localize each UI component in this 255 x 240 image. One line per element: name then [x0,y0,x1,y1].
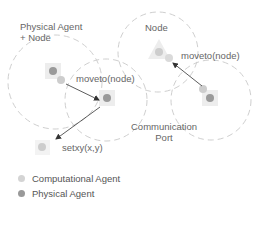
label-physical-agent-line2: + Node [20,32,82,43]
node-dot[interactable] [155,48,163,56]
label-physical-agent-line1: Physical Agent [20,21,82,32]
arrow-setxy [56,107,100,139]
middle-physical-agent-group [99,90,115,106]
label-node: Node [145,22,168,33]
label-communication-line2: Port [126,132,202,143]
physical-agent-dot[interactable] [103,94,111,102]
computational-agent-dot[interactable] [57,76,65,84]
legend-label-computational: Computational Agent [32,173,120,184]
computational-agent-dot[interactable] [199,85,207,93]
arrow-moveto-right [173,63,202,86]
node-group [148,39,173,62]
physical-agent-legend-icon [18,190,25,197]
physical-agent-dot[interactable] [206,94,214,102]
legend-item-physical-agent: Physical Agent [18,187,94,199]
computational-agent-legend-icon [18,175,25,182]
label-communication-port: Communication Port [126,121,202,143]
label-setxy: setxy(x,y) [62,142,103,153]
label-moveto-left: moveto(node) [76,73,135,84]
physical-agent-node-group [45,63,65,84]
physical-agent-dot[interactable] [49,67,57,75]
legend-item-computational-agent: Computational Agent [18,172,120,184]
setxy-target-group [35,140,50,155]
label-moveto-right: moveto(node) [181,50,240,61]
right-agent-group [199,85,218,106]
computational-agent-dot[interactable] [165,54,173,62]
arrow-moveto-left [66,84,99,100]
label-communication-line1: Communication [126,121,202,132]
legend-label-physical: Physical Agent [32,188,94,199]
label-physical-agent-node: Physical Agent + Node [20,21,82,43]
computational-agent-dot[interactable] [38,143,46,151]
